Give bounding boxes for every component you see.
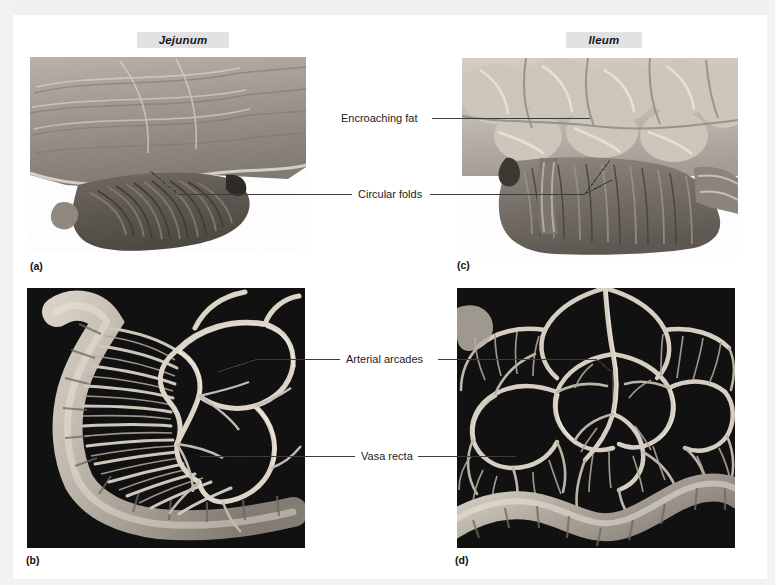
callout-label-vasa-recta: Vasa recta <box>361 450 413 462</box>
panel-letter-d: (d) <box>455 554 468 566</box>
header-label-jejunum: Jejunum <box>137 32 229 48</box>
panel-letter-c: (c) <box>457 259 470 271</box>
callout-label-arterial-arcades: Arterial arcades <box>346 353 423 365</box>
callout-label-circular-folds: Circular folds <box>358 188 422 200</box>
page-edge-bottom <box>0 579 775 585</box>
figure-page: Jejunum Ileum <box>0 0 775 585</box>
page-edge-left <box>0 0 13 585</box>
panel-c-photo-ileum-lumen <box>462 58 738 258</box>
callout-label-encroaching-fat: Encroaching fat <box>341 112 417 124</box>
page-edge-right <box>767 0 775 585</box>
panel-b-photo-jejunum-mesentery <box>27 288 305 548</box>
panel-letter-b: (b) <box>26 554 39 566</box>
page-edge-top <box>0 0 775 15</box>
header-label-ileum: Ileum <box>566 32 642 48</box>
panel-d-photo-ileum-mesentery <box>457 288 735 548</box>
panel-letter-a: (a) <box>30 260 43 272</box>
panel-a-photo-jejunum-lumen <box>30 57 306 252</box>
